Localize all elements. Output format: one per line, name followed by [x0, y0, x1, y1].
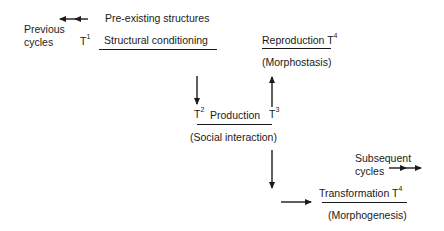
cycles-label: cycles [24, 37, 53, 48]
reproduction-sup: 4 [334, 32, 338, 39]
transformation-text: Transformation T [319, 187, 398, 199]
pre-existing-structures-label: Pre-existing structures [105, 13, 209, 24]
morphogenesis-label: (Morphogenesis) [328, 210, 407, 221]
structural-conditioning-underline [99, 49, 217, 50]
previous-cycles-arrow-icon [60, 16, 88, 22]
transformation-label: Transformation T4 [319, 188, 402, 199]
morphostasis-label: (Morphostasis) [262, 57, 331, 68]
transformation-underline [322, 202, 407, 203]
t1-label: T1 [80, 36, 90, 47]
structural-conditioning-label: Structural conditioning [104, 35, 208, 46]
t2-sup: 2 [200, 106, 204, 113]
t3-label: T3 [269, 109, 279, 120]
t1-sup: 1 [86, 33, 90, 40]
subsequent-cycles-label: cycles [355, 166, 384, 177]
subsequent-label: Subsequent [355, 153, 411, 164]
t2-label: T2 [194, 109, 204, 120]
production-underline [197, 124, 272, 125]
previous-cycles-label: Previous [24, 24, 65, 35]
production-label: Production [210, 110, 260, 121]
cycles-text: cycles [24, 36, 53, 48]
subsequent-cycles-arrow-icon [389, 165, 421, 171]
previous-label: Previous [24, 23, 65, 35]
t3-sup: 3 [275, 106, 279, 113]
transformation-sup: 4 [398, 185, 402, 192]
reproduction-label: Reproduction T4 [262, 35, 338, 46]
reproduction-underline [262, 48, 331, 49]
reproduction-text: Reproduction T [262, 34, 334, 46]
social-interaction-label: (Social interaction) [190, 132, 277, 143]
